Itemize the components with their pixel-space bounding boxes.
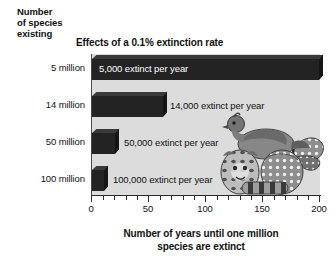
chart-title: Effects of a 0.1% extinction rate (76, 37, 223, 48)
y-axis-heading-line-2: of species (17, 17, 93, 28)
x-tick-label-100: 100 (185, 203, 225, 214)
bar-front-face (92, 133, 115, 154)
bar-side-face (163, 92, 167, 117)
x-tick-minor (285, 196, 286, 200)
x-tick-label-50: 50 (128, 203, 168, 214)
bar-side-face (115, 129, 119, 154)
x-axis-title: Number of years until one million specie… (76, 228, 326, 253)
x-axis-title-line-2: species are extinct (76, 241, 326, 254)
x-tick-minor (308, 196, 309, 200)
x-tick-minor (274, 196, 275, 200)
bar-50-million (92, 133, 115, 154)
value-label-100-million: 100,000 extinct per year (113, 174, 213, 185)
y-axis-heading-line-1: Number (17, 6, 93, 17)
extinction-rate-chart: Number of species existing Effects of a … (0, 0, 336, 263)
x-tick-major-50 (148, 196, 149, 202)
x-tick-major-200 (319, 196, 320, 202)
bar-side-face (319, 55, 323, 80)
x-tick-minor (240, 196, 241, 200)
bar-front-face (92, 96, 163, 117)
value-label-14-million: 14,000 extinct per year (170, 100, 264, 111)
bar-front-face (92, 170, 104, 191)
x-tick-minor (126, 196, 127, 200)
x-tick-minor (137, 196, 138, 200)
x-tick-minor (217, 196, 218, 200)
x-tick-major-150 (262, 196, 263, 202)
x-tick-minor (251, 196, 252, 200)
x-tick-minor (103, 196, 104, 200)
value-label-5-million: 5,000 extinct per year (99, 63, 188, 74)
y-axis-heading: Number of species existing (17, 6, 93, 40)
x-tick-minor (160, 196, 161, 200)
x-tick-minor (194, 196, 195, 200)
x-tick-label-150: 150 (242, 203, 282, 214)
x-tick-label-0: 0 (71, 203, 111, 214)
x-axis-title-line-1: Number of years until one million (76, 228, 326, 241)
x-tick-major-100 (205, 196, 206, 202)
x-tick-minor (171, 196, 172, 200)
category-label-14-million: 14 million (0, 99, 85, 110)
bar-side-face (104, 166, 108, 191)
category-label-5-million: 5 million (0, 62, 85, 73)
bar-14-million (92, 96, 163, 117)
value-label-50-million: 50,000 extinct per year (124, 137, 218, 148)
x-tick-label-200: 200 (299, 203, 336, 214)
category-label-100-million: 100 million (0, 173, 85, 184)
x-tick-major-0 (91, 196, 92, 202)
x-tick-minor (297, 196, 298, 200)
x-tick-minor (183, 196, 184, 200)
x-tick-minor (114, 196, 115, 200)
category-label-50-million: 50 million (0, 136, 85, 147)
x-tick-minor (228, 196, 229, 200)
bar-100-million (92, 170, 104, 191)
